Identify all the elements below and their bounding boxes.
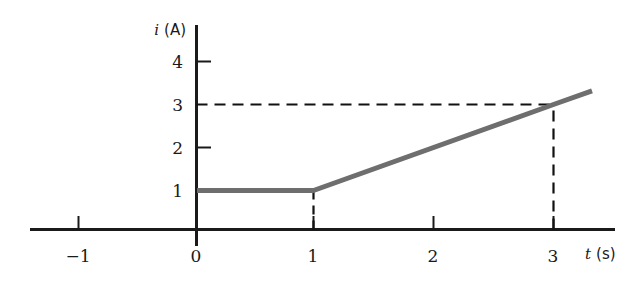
- x-tick-label-1: 1: [308, 246, 319, 266]
- x-tick-label--1: −1: [65, 246, 90, 266]
- chart-canvas: −1 0 1 2 3 1 2 3 4 i(A) t(s): [0, 0, 640, 284]
- y-tick-label-4: 4: [172, 52, 183, 72]
- y-axis-label-unit: (A): [164, 21, 186, 39]
- y-axis-label: i(A): [154, 21, 186, 39]
- y-tick-label-1: 1: [172, 181, 183, 201]
- current-vs-time-chart: −1 0 1 2 3 1 2 3 4 i(A) t(s): [0, 0, 640, 284]
- y-axis-label-variable: i: [154, 21, 159, 39]
- x-axis-label: t(s): [585, 245, 616, 263]
- x-axis-label-variable: t: [585, 245, 592, 263]
- x-tick-label-2: 2: [428, 246, 439, 266]
- y-tick-label-3: 3: [172, 95, 183, 115]
- x-tick-label-3: 3: [548, 246, 559, 266]
- x-tick-label-0: 0: [191, 246, 202, 266]
- x-axis-ticks: [79, 216, 554, 230]
- y-tick-label-2: 2: [172, 138, 183, 158]
- current-waveform-line: [197, 91, 592, 191]
- x-axis-label-unit: (s): [596, 245, 616, 263]
